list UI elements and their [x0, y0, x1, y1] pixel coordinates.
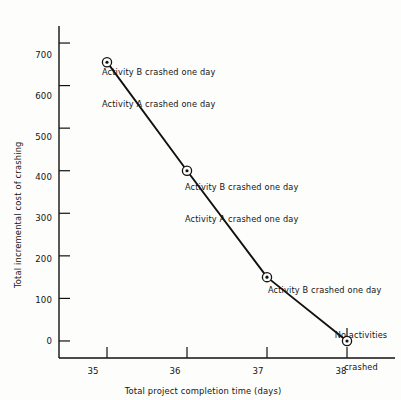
annotation-line: crashed [323, 362, 399, 373]
x-tick-label-37: 37 [238, 366, 278, 377]
annotation-line: No activities [323, 330, 399, 341]
y-tick-label-0: 0 [18, 336, 52, 347]
annotation-point-38: No activities crashed [323, 308, 399, 394]
x-axis-title: Total project completion time (days) [68, 386, 338, 397]
annotation-line: Activity B crashed one day [185, 182, 298, 193]
annotation-point-36: Activity B crashed one day Activity A cr… [185, 160, 298, 246]
annotation-point-35: Activity B crashed one day Activity A cr… [102, 45, 215, 131]
annotation-line: Activity A crashed one day [102, 99, 215, 110]
x-axis-ticks [107, 347, 347, 358]
annotation-line: Activity B crashed one day [268, 285, 381, 296]
annotation-line: Activity B crashed one day [102, 67, 215, 78]
y-tick-label-100: 100 [18, 295, 52, 306]
y-axis-ticks [59, 43, 70, 341]
y-tick-label-600: 600 [18, 91, 52, 102]
y-tick-label-700: 700 [18, 50, 52, 61]
chart-figure: 700 600 500 400 300 200 100 0 35 36 37 3… [0, 0, 401, 400]
y-axis-title: Total incremental cost of crashing [13, 108, 24, 288]
annotation-line: Activity A crashed one day [185, 214, 298, 225]
x-tick-label-35: 35 [73, 366, 113, 377]
x-tick-label-36: 36 [155, 366, 195, 377]
